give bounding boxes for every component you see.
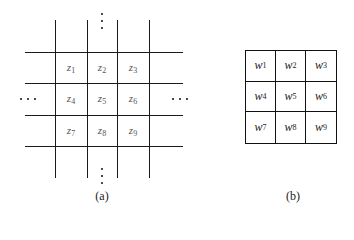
mask-cell-w8: w8 (276, 112, 306, 143)
grid-vline-4 (149, 20, 150, 178)
cell-label-z7: z7 (67, 124, 75, 138)
grid-hline-1 (25, 52, 183, 53)
mask-cell-w3: w3 (306, 51, 336, 82)
cell-label-z3: z3 (129, 61, 137, 75)
grid-hline-2 (25, 83, 183, 84)
mask-grid: w1 w2 w3 w4 w5 w6 w7 w8 w9 (245, 50, 337, 144)
cell-label-z2: z2 (98, 61, 106, 75)
mask-cell-w5: w5 (276, 82, 306, 113)
cell-label-z6: z6 (129, 92, 137, 106)
mask-cell-w2: w2 (276, 51, 306, 82)
caption-a: (a) (95, 189, 108, 204)
cell-label-z1: z1 (67, 61, 75, 75)
cell-label-z9: z9 (129, 124, 137, 138)
mask-cell-w1: w1 (246, 51, 276, 82)
grid-vline-1 (55, 20, 56, 178)
caption-b: (b) (286, 189, 300, 204)
cell-label-z5: z5 (98, 92, 106, 106)
cell-label-z4: z4 (67, 92, 75, 106)
grid-vline-2 (87, 20, 88, 178)
mask-cell-w6: w6 (306, 82, 336, 113)
grid-hline-4 (25, 146, 183, 147)
mask-cell-w7: w7 (246, 112, 276, 143)
mask-cell-w4: w4 (246, 82, 276, 113)
cell-label-z8: z8 (98, 124, 106, 138)
grid-vline-3 (117, 20, 118, 178)
grid-hline-3 (25, 115, 183, 116)
mask-cell-w9: w9 (306, 112, 336, 143)
